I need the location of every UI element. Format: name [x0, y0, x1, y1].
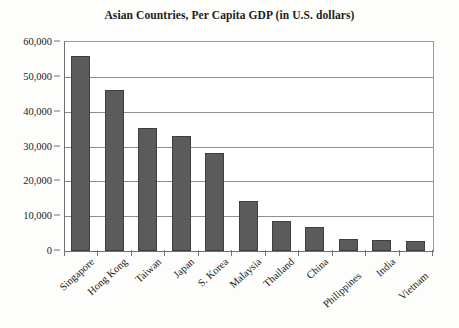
y-axis-tick	[54, 250, 60, 251]
y-axis-tick	[54, 215, 60, 216]
y-axis-tick-label: 0	[47, 245, 52, 256]
x-axis-tick-label: China	[304, 256, 330, 281]
y-axis-tick-label: 10,000	[23, 210, 52, 221]
x-axis-tick-label: Philippines	[321, 270, 363, 310]
y-axis-tick	[54, 145, 60, 146]
x-axis-tick-label: Japan	[171, 256, 196, 280]
bar	[138, 128, 157, 251]
bars-layer	[65, 42, 433, 251]
bar	[172, 136, 191, 251]
x-axis-labels: SingaporeHong KongTaiwanJapanS. KoreaMal…	[0, 256, 459, 328]
bar	[205, 153, 224, 251]
x-axis-tick-label: Thailand	[262, 256, 297, 289]
y-axis: 010,00020,00030,00040,00050,00060,000	[0, 41, 60, 250]
x-axis-tick-label: Malaysia	[227, 256, 263, 290]
x-axis-tick-label: S. Korea	[195, 256, 230, 289]
chart-title: Asian Countries, Per Capita GDP (in U.S.…	[0, 9, 459, 21]
y-axis-tick-label: 30,000	[23, 140, 52, 151]
y-axis-tick-label: 50,000	[23, 70, 52, 81]
y-axis-tick	[54, 110, 60, 111]
plot-area	[64, 41, 434, 252]
y-axis-tick-label: 40,000	[23, 105, 52, 116]
bar	[105, 90, 124, 251]
bar	[272, 221, 291, 251]
x-axis-tick-label: Taiwan	[133, 256, 163, 285]
bar	[71, 56, 90, 251]
bar	[239, 201, 258, 251]
x-axis-tick-label: Vietnam	[397, 270, 431, 302]
y-axis-tick	[54, 41, 60, 42]
y-axis-tick	[54, 180, 60, 181]
x-axis-tick-label: India	[374, 256, 397, 279]
chart-page: Asian Countries, Per Capita GDP (in U.S.…	[0, 0, 459, 328]
y-axis-tick-label: 60,000	[23, 36, 52, 47]
bar	[305, 227, 324, 251]
y-axis-tick	[54, 75, 60, 76]
y-axis-tick-label: 20,000	[23, 175, 52, 186]
